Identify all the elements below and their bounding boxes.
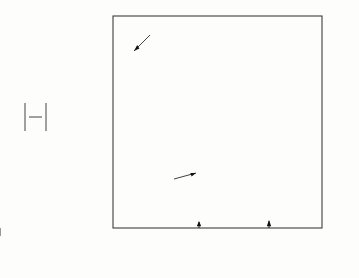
chart-svg [0, 0, 359, 278]
annotation-one-over-d [134, 35, 150, 51]
annotation-period3 [197, 221, 201, 228]
period3-arrowhead [197, 221, 201, 226]
inverse-tangent-arrowhead [267, 220, 271, 226]
y-axis-label-group [25, 103, 46, 131]
annotation-theory [174, 173, 196, 179]
figure-panel [0, 0, 359, 278]
plot-frame [113, 16, 322, 228]
axes-box [113, 16, 322, 228]
annotation-inverse-tangent [267, 220, 271, 228]
theory-arrowhead [190, 173, 196, 177]
